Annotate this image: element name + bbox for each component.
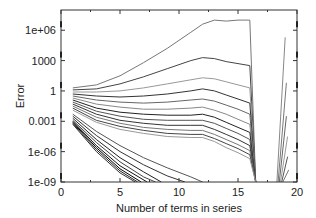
y-axis: 1e-091e-060.001110001e+06 (25, 21, 298, 188)
series-layer (73, 20, 289, 182)
x-tick-label: 5 (117, 186, 123, 198)
y-tick-label: 1 (50, 85, 56, 97)
y-tick-label: 0.001 (28, 115, 56, 127)
y-axis-title: Error (14, 83, 26, 108)
error-chart: 05101520 1e-091e-060.001110001e+06 Numbe… (0, 0, 316, 218)
x-tick-label: 10 (173, 186, 185, 198)
series-line-lower-1 (73, 114, 203, 182)
y-tick-label: 1e-09 (28, 176, 56, 188)
x-tick-label: 20 (291, 186, 303, 198)
y-tick-label: 1e+06 (25, 24, 56, 36)
x-tick-label: 0 (58, 186, 64, 198)
x-tick-label: 15 (232, 186, 244, 198)
y-tick-label: 1e-06 (28, 146, 56, 158)
series-line-upper-1 (73, 20, 256, 182)
x-axis-title: Number of terms in series (116, 202, 242, 214)
y-tick-label: 1000 (32, 55, 56, 67)
